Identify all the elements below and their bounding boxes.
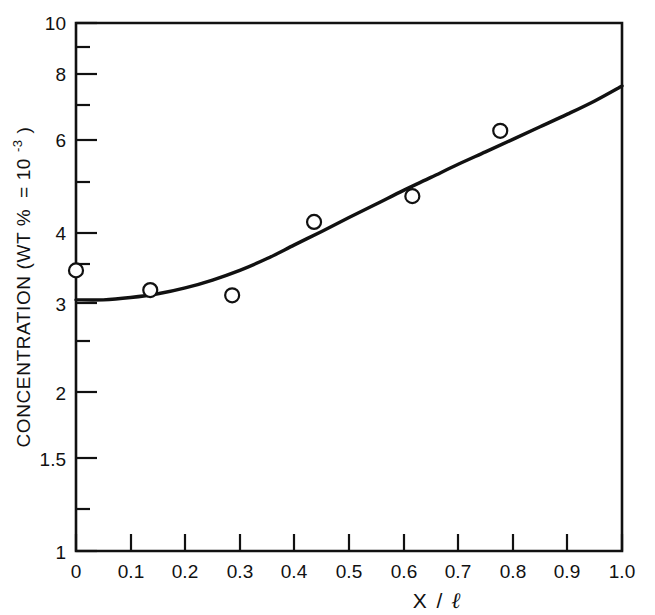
y-label-3: 3 — [55, 294, 66, 315]
y-label-10: 10 — [45, 13, 66, 34]
x-label-0p3: 0.3 — [227, 561, 253, 582]
y-label-6: 6 — [55, 130, 66, 151]
data-point-marker — [69, 263, 83, 277]
x-label-0p1: 0.1 — [118, 561, 144, 582]
y-label-4: 4 — [55, 223, 66, 244]
data-point-marker — [493, 124, 507, 138]
chart-background — [0, 0, 655, 615]
x-label-0p5: 0.5 — [336, 561, 362, 582]
y-label-1: 1 — [55, 542, 66, 563]
y-axis-title-main: CONCENTRATION (WT % — [13, 209, 34, 448]
y-axis-title-close: ) — [13, 127, 34, 134]
data-point-marker — [143, 283, 157, 297]
y-label-8: 8 — [55, 64, 66, 85]
x-label-1p0: 1.0 — [609, 561, 635, 582]
y-axis-title-equals: = 10 — [13, 158, 34, 198]
x-axis-title-slash: / — [437, 589, 444, 612]
y-label-2: 2 — [55, 383, 66, 404]
data-point-marker — [405, 189, 419, 203]
x-label-0p9: 0.9 — [554, 561, 580, 582]
concentration-profile-chart: 10 8 6 4 3 2 1.5 1 0 0.1 0.2 0.3 0.4 0.5… — [0, 0, 655, 615]
x-label-0: 0 — [71, 561, 82, 582]
x-axis-title: X / ℓ — [413, 588, 462, 613]
x-label-0p2: 0.2 — [172, 561, 198, 582]
x-label-0p8: 0.8 — [500, 561, 526, 582]
data-point-marker — [225, 288, 239, 302]
y-label-1p5: 1.5 — [40, 449, 66, 470]
y-axis-title-exponent: -3 — [10, 139, 25, 152]
data-point-marker — [307, 215, 321, 229]
x-label-0p6: 0.6 — [391, 561, 417, 582]
x-label-0p7: 0.7 — [445, 561, 471, 582]
x-axis-title-denominator: ℓ — [451, 588, 461, 613]
x-axis-title-numerator: X — [413, 589, 428, 612]
x-label-0p4: 0.4 — [281, 561, 308, 582]
